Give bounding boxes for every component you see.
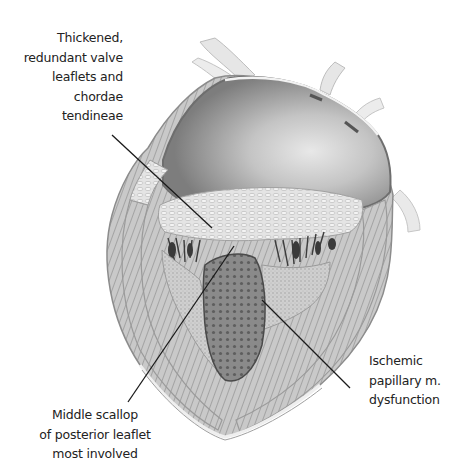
label-line: tendineae — [24, 106, 123, 126]
thickened-valve-leaflets — [158, 188, 362, 241]
label-line: leaflets and — [24, 67, 123, 87]
label-line: redundant valve — [24, 48, 123, 68]
label-thickened-leaflets: Thickened, redundant valve leaflets and … — [24, 28, 123, 126]
left-ventricle-cavity — [203, 254, 265, 381]
label-line: Ischemic — [369, 351, 441, 371]
heart-illustration-figure: Thickened, redundant valve leaflets and … — [0, 0, 470, 473]
label-line: Middle scallop — [28, 405, 162, 425]
label-middle-scallop: Middle scallop of posterior leaflet most… — [28, 405, 162, 464]
label-line: chordae — [24, 87, 123, 107]
label-line: of posterior leaflet — [28, 425, 162, 445]
label-ischemic-papillary: Ischemic papillary m. dysfunction — [369, 351, 441, 410]
label-line: dysfunction — [369, 390, 441, 410]
label-line: papillary m. — [369, 371, 441, 391]
label-line: Thickened, — [24, 28, 123, 48]
label-line: most involved — [28, 444, 162, 464]
